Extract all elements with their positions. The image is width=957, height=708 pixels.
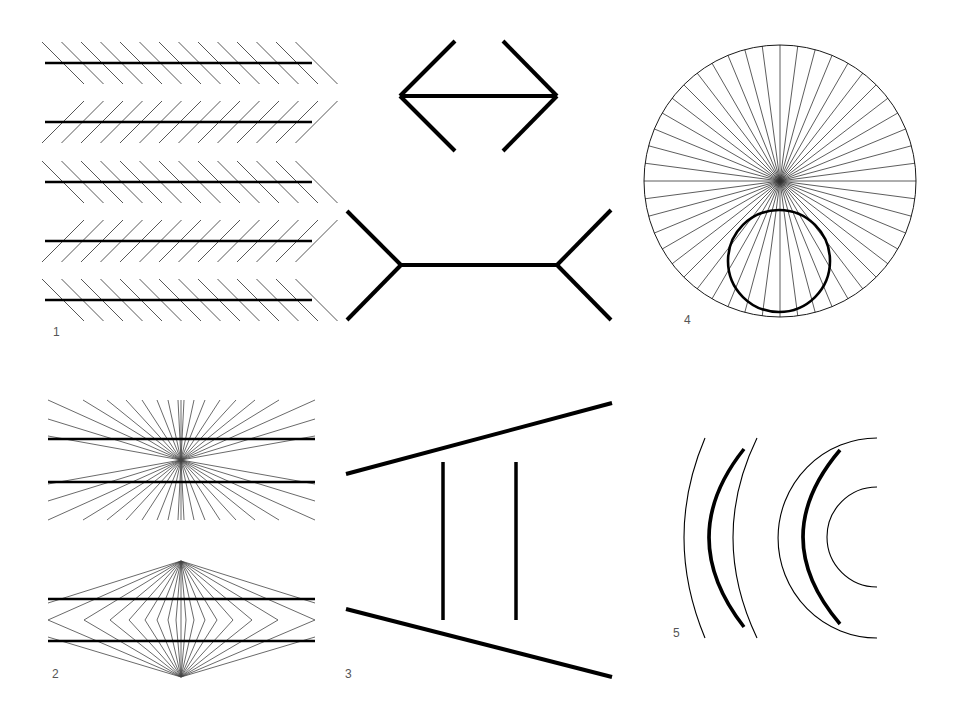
chevron-line: [176, 561, 181, 620]
ray-line: [181, 400, 184, 460]
panel-label-2: 2: [52, 667, 59, 681]
ray-line: [181, 637, 315, 677]
ray-line: [126, 400, 181, 460]
chevron-line: [181, 561, 278, 620]
panel-label-3: 3: [345, 667, 352, 681]
spoke-line: [780, 55, 832, 181]
chevron-line: [181, 620, 217, 677]
spoke-line: [780, 129, 906, 181]
spoke-line: [780, 181, 911, 216]
chevron-line: [176, 620, 181, 677]
spoke-line: [745, 181, 780, 312]
thick-arc: [803, 450, 840, 624]
chevron-line: [145, 561, 181, 620]
chevron-line: [181, 620, 186, 677]
spoke-line: [780, 85, 876, 181]
chevron-line: [145, 620, 181, 677]
hering-wundt-illusion-panel: [48, 400, 315, 677]
orbison-illusion-panel: [644, 45, 916, 317]
ray-line: [48, 637, 181, 677]
bottom-fin: [347, 211, 401, 265]
ponzo-illusion-panel: [346, 403, 612, 677]
spoke-line: [684, 85, 780, 181]
spoke-line: [780, 146, 911, 181]
panel-label-5: 5: [673, 626, 680, 640]
chevron-line: [48, 561, 181, 620]
bottom-fin: [347, 265, 401, 320]
chevron-line: [181, 561, 186, 620]
ray-line: [181, 460, 236, 520]
chevron-line: [48, 620, 181, 677]
chevron-line: [129, 561, 181, 620]
top-rail-line: [346, 403, 612, 474]
thin-arc: [733, 438, 757, 638]
bottom-fin: [557, 210, 611, 265]
spoke-line: [662, 181, 780, 249]
ray-line: [48, 561, 181, 603]
spoke-line: [649, 146, 780, 181]
spoke-line: [745, 50, 780, 181]
chevron-line: [181, 561, 233, 620]
chevron-line: [181, 620, 233, 677]
spoke-line: [654, 129, 780, 181]
ray-line: [181, 400, 236, 460]
top-fin: [400, 41, 455, 96]
thin-arc: [827, 487, 877, 587]
spoke-line: [780, 181, 876, 277]
chevron-line: [181, 561, 217, 620]
chevron-line: [84, 620, 181, 677]
panel-label-1: 1: [53, 325, 60, 339]
muller-lyer-illusion-panel: [347, 41, 611, 320]
ray-line: [126, 460, 181, 520]
bottom-fin: [557, 265, 611, 320]
zollner-illusion-panel: [42, 42, 338, 321]
spoke-line: [780, 50, 815, 181]
spoke-line: [780, 181, 815, 312]
ray-line: [178, 400, 181, 460]
spoke-line: [780, 181, 898, 249]
panel-label-4: 4: [684, 313, 691, 327]
spoke-line: [780, 181, 848, 299]
thin-arc: [684, 438, 705, 638]
chevron-line: [129, 620, 181, 677]
bottom-rail-line: [346, 609, 612, 677]
ray-line: [181, 561, 315, 603]
spoke-line: [684, 181, 780, 277]
spoke-line: [712, 181, 780, 299]
ray-line: [181, 460, 184, 520]
spoke-line: [712, 63, 780, 181]
top-fin: [400, 96, 455, 151]
thick-arc: [709, 449, 744, 627]
ray-line: [178, 460, 181, 520]
spoke-line: [649, 181, 780, 216]
spoke-line: [780, 181, 832, 307]
jastrow-arcs-illusion-panel: [684, 438, 877, 638]
spoke-line: [662, 113, 780, 181]
top-fin: [503, 41, 557, 96]
chevron-line: [84, 561, 181, 620]
spoke-line: [780, 63, 848, 181]
spoke-line: [780, 113, 898, 181]
inner-circle: [728, 210, 830, 312]
optical-illusions-figure: 1 4 2 3 5: [0, 0, 957, 708]
spoke-line: [654, 181, 780, 233]
spoke-line: [780, 181, 906, 233]
spoke-line: [728, 55, 780, 181]
top-fin: [503, 96, 557, 151]
chevron-line: [181, 620, 278, 677]
